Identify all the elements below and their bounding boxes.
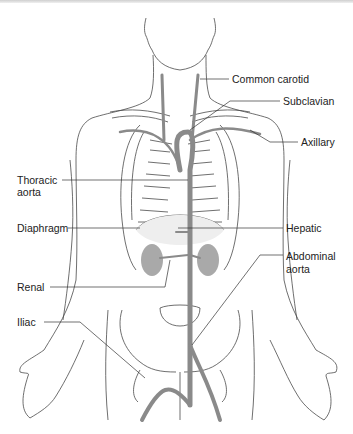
label-diaphragm: Diaphragm xyxy=(17,222,68,234)
diaphragm-shading xyxy=(136,215,224,245)
label-subclavian: Subclavian xyxy=(283,95,334,107)
arteries xyxy=(120,75,260,420)
label-thoracic-aorta-line2: aorta xyxy=(17,186,41,198)
label-common-carotid: Common carotid xyxy=(232,73,309,85)
left-kidney xyxy=(141,244,163,276)
label-iliac: Iliac xyxy=(17,316,36,328)
label-hepatic: Hepatic xyxy=(286,222,322,234)
label-axillary: Axillary xyxy=(301,136,335,148)
label-abdominal-aorta-line2: aorta xyxy=(286,263,310,275)
label-renal: Renal xyxy=(17,281,44,293)
anatomy-illustration xyxy=(0,0,353,434)
right-kidney xyxy=(197,244,219,276)
label-abdominal-aorta-line1: Abdominal xyxy=(286,250,336,262)
label-thoracic-aorta-line1: Thoracic xyxy=(17,174,57,186)
